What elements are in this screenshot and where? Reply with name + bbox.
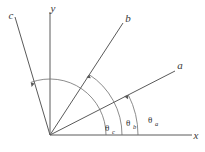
ray-b-line: [50, 23, 123, 135]
ray-b-label: b: [125, 12, 131, 24]
theta-c-subscript: c: [112, 128, 115, 135]
diagram-canvas: x y a b c θ a θ b θ c: [0, 0, 205, 152]
theta-b-subscript: b: [133, 123, 137, 130]
theta-a-label: θ a: [148, 115, 158, 127]
arc-theta-c-arrowhead: [31, 82, 35, 87]
theta-c-label: θ c: [105, 123, 115, 135]
angle-diagram: x y a b c θ a θ b θ c: [0, 0, 205, 152]
ray-c-line: [15, 17, 50, 135]
theta-a-symbol: θ: [148, 115, 152, 125]
theta-b-label: θ b: [126, 118, 137, 130]
theta-c-symbol: θ: [105, 123, 109, 133]
theta-b-symbol: θ: [126, 118, 130, 128]
ray-c-label: c: [9, 9, 14, 21]
theta-a-subscript: a: [155, 120, 158, 127]
y-axis-label: y: [50, 2, 56, 14]
ray-a-label: a: [177, 59, 183, 71]
x-axis-label: x: [193, 129, 199, 141]
